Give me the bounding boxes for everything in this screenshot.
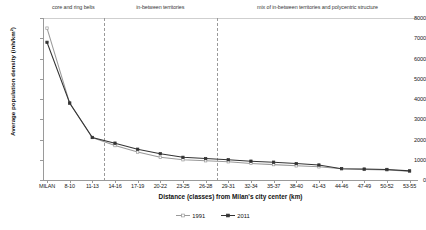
data-point-marker: [408, 170, 410, 172]
x-axis-title: Distance (classes) from Milan's city cen…: [43, 193, 418, 200]
legend-item-1991: 1991: [176, 212, 205, 219]
data-point-marker: [136, 148, 138, 150]
data-point-marker: [182, 159, 184, 161]
chart-legend: 19912011: [0, 212, 426, 219]
legend-swatch-2011: [221, 212, 235, 219]
data-point-marker: [340, 167, 342, 169]
data-point-marker: [68, 102, 70, 104]
data-point-marker: [91, 136, 93, 138]
data-point-marker: [114, 142, 116, 144]
data-point-marker: [227, 159, 229, 161]
legend-item-2011: 2011: [221, 212, 249, 219]
chart-figure: Average population density (inh/km²) 010…: [0, 0, 426, 230]
data-point-marker: [136, 151, 138, 153]
legend-label: 1991: [192, 213, 205, 219]
series-line-2011: [47, 42, 410, 171]
data-point-marker: [386, 168, 388, 170]
data-point-marker: [272, 161, 274, 163]
data-point-marker: [204, 157, 206, 159]
data-point-marker: [46, 27, 48, 29]
data-point-marker: [159, 152, 161, 154]
data-point-marker: [46, 41, 48, 43]
legend-label: 2011: [237, 213, 249, 219]
data-point-marker: [159, 156, 161, 158]
legend-swatch-1991: [176, 212, 190, 219]
data-point-marker: [250, 160, 252, 162]
series-line-1991: [47, 28, 410, 171]
data-point-marker: [318, 164, 320, 166]
data-point-marker: [272, 163, 274, 165]
data-point-marker: [363, 168, 365, 170]
data-point-marker: [295, 162, 297, 164]
data-point-marker: [182, 156, 184, 158]
data-point-marker: [114, 144, 116, 146]
